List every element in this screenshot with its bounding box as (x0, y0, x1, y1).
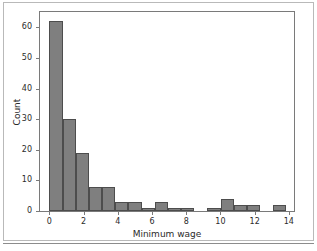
histogram-bar (247, 205, 260, 211)
x-tick-label: 0 (39, 217, 59, 226)
histogram-bar (76, 153, 89, 211)
x-tick-label: 6 (142, 217, 162, 226)
histogram-bar (49, 21, 62, 211)
histogram-bar (142, 208, 155, 211)
x-tick-mark (220, 212, 221, 215)
histogram-figure: Count 0102030405060 02468101214 Minimum … (0, 0, 317, 251)
x-tick-label: 4 (108, 217, 128, 226)
y-tick-label: 20 (4, 146, 32, 154)
y-tick-label: 50 (4, 54, 32, 62)
y-tick-label: 40 (4, 85, 32, 93)
x-tick-label: 2 (74, 217, 94, 226)
histogram-bar (155, 202, 168, 211)
x-tick-mark (118, 212, 119, 215)
x-tick-mark (49, 212, 50, 215)
histogram-bar (63, 119, 76, 211)
histogram-bar (168, 208, 181, 211)
histogram-bar (221, 199, 234, 211)
histogram-bar (89, 187, 102, 211)
histogram-bar (181, 208, 194, 211)
x-tick-mark (186, 212, 187, 215)
x-tick-mark (152, 212, 153, 215)
histogram-bar (207, 208, 220, 211)
x-tick-label: 14 (279, 217, 299, 226)
plot-area (40, 12, 294, 211)
x-tick-label: 8 (176, 217, 196, 226)
histogram-bar (115, 202, 128, 211)
y-tick-label: 0 (4, 207, 32, 215)
x-tick-mark (84, 212, 85, 215)
x-tick-label: 10 (210, 217, 230, 226)
x-tick-mark (255, 212, 256, 215)
y-tick-label: 10 (4, 176, 32, 184)
page-bottom-rule (3, 243, 314, 244)
x-tick-label: 12 (245, 217, 265, 226)
y-tick-label: 60 (4, 23, 32, 31)
histogram-bar (273, 205, 286, 211)
y-tick-label: 30 (4, 115, 32, 123)
histogram-bar (234, 205, 247, 211)
histogram-bar (102, 187, 115, 211)
x-axis-label: Minimum wage (39, 229, 295, 239)
histogram-bar (128, 202, 141, 211)
x-tick-mark (289, 212, 290, 215)
